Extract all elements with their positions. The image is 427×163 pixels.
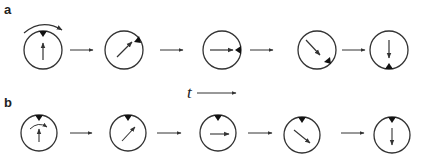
pointer-arrow-icon [306, 40, 320, 55]
dial-frame-a3 [203, 31, 241, 69]
time-label: t [187, 83, 193, 102]
marker-icon [298, 117, 306, 123]
dial-frame-a2 [105, 31, 143, 69]
dial-frame-b3 [200, 115, 236, 151]
panel-a-label: a [4, 2, 12, 17]
dial-frame-b4 [284, 117, 320, 153]
dial-frame-a5 [370, 31, 408, 69]
marker-icon [388, 117, 396, 123]
marker-icon [35, 115, 43, 121]
diagram-canvas: a b [0, 0, 427, 163]
pointer-arrow-icon [122, 127, 135, 141]
marker-icon [324, 57, 331, 64]
marker-icon [214, 115, 222, 121]
dial-frame-b1 [21, 115, 57, 151]
pointer-arrow-icon [294, 130, 310, 143]
rotation-arrow-icon [30, 124, 47, 129]
dial-frame-b2 [110, 115, 146, 151]
panel-a [24, 25, 408, 69]
dial-frame-a1 [24, 31, 62, 69]
marker-icon [39, 31, 47, 37]
panel-b-label: b [4, 95, 12, 110]
dial-frame-b5 [374, 117, 410, 153]
marker-icon [235, 46, 241, 54]
time-axis: t [187, 83, 236, 102]
pointer-arrow-icon [117, 42, 132, 57]
marker-icon [124, 115, 132, 121]
panel-b [21, 115, 410, 153]
dial-frame-a4 [298, 31, 336, 69]
marker-icon [385, 63, 393, 69]
